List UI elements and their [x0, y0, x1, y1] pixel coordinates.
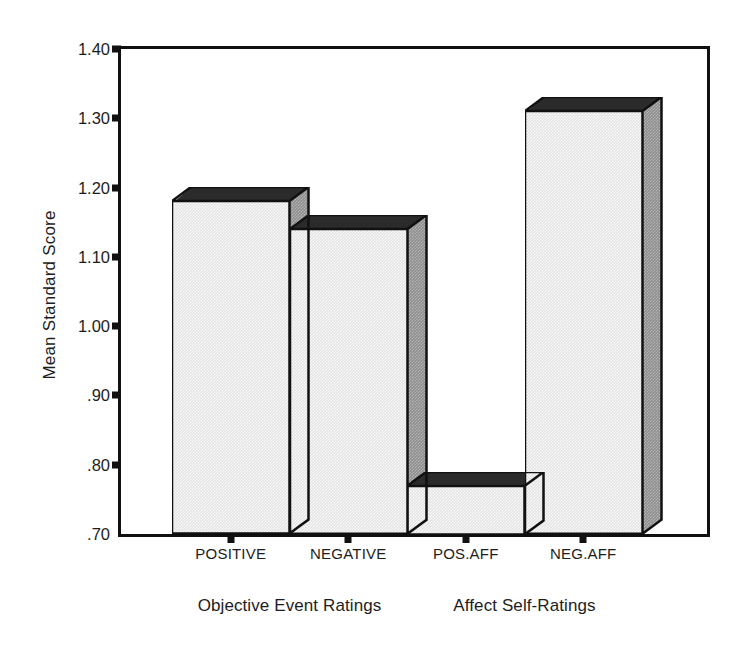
bar-front-face	[290, 229, 408, 534]
bar	[525, 111, 643, 534]
bar-front-face	[172, 201, 290, 534]
plot-surface	[121, 49, 707, 534]
y-axis-tick-labels: .70.80.901.001.101.201.301.40	[48, 0, 110, 648]
y-axis-tick-label: .90	[54, 386, 110, 405]
group-label: Objective Event Ratings	[198, 596, 382, 616]
bar	[290, 229, 408, 534]
x-axis-tick-mark	[462, 536, 469, 543]
y-axis-tick-mark	[112, 115, 121, 122]
bar-chart-figure: Mean Standard Score .70.80.901.001.101.2…	[0, 0, 755, 648]
x-axis-tick-mark	[227, 536, 234, 543]
x-axis-tick-mark	[345, 536, 352, 543]
y-axis-tick-label: .70	[54, 525, 110, 544]
bar	[172, 201, 290, 534]
group-labels: Objective Event RatingsAffect Self-Ratin…	[118, 596, 710, 624]
group-label: Affect Self-Ratings	[453, 596, 595, 616]
bar-side-face	[642, 97, 661, 534]
x-axis-tick-labels: POSITIVENEGATIVEPOS.AFFNEG.AFF	[118, 545, 710, 571]
x-axis-tick-label: POS.AFF	[433, 545, 499, 562]
y-axis-tick-label: 1.00	[54, 317, 110, 336]
y-axis-tick-label: .80	[54, 455, 110, 474]
x-axis-tick-label: NEG.AFF	[550, 545, 616, 562]
bar-front-face	[407, 486, 525, 535]
y-axis-tick-mark	[112, 323, 121, 330]
y-axis-tick-mark	[112, 184, 121, 191]
y-axis-tick-label: 1.10	[54, 247, 110, 266]
bar	[407, 486, 525, 535]
y-axis-tick-label: 1.30	[54, 109, 110, 128]
y-axis-tick-mark	[112, 253, 121, 260]
bar-front-face	[525, 111, 643, 534]
y-axis-tick-mark	[112, 46, 121, 53]
y-axis-tick-mark	[112, 392, 121, 399]
plot-area	[118, 46, 710, 537]
x-axis-tick-mark	[580, 536, 587, 543]
y-axis-tick-label: 1.40	[54, 40, 110, 59]
x-axis-tick-label: NEGATIVE	[310, 545, 386, 562]
y-axis-tick-label: 1.20	[54, 178, 110, 197]
y-axis-tick-mark	[112, 461, 121, 468]
x-axis-tick-label: POSITIVE	[195, 545, 266, 562]
